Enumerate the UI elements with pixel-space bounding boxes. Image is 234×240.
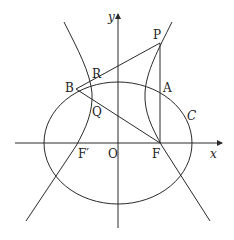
point-label-A: A — [163, 82, 172, 94]
hyperbola-left-branch — [26, 22, 92, 221]
origin-label-O: O — [108, 148, 118, 160]
x-axis-label: x — [210, 148, 217, 160]
diagram-canvas: y x P A C B R Q F′ O F — [0, 0, 234, 240]
y-axis-label: y — [108, 11, 115, 23]
point-label-B: B — [65, 82, 74, 94]
point-label-P: P — [153, 29, 161, 41]
point-label-Q: Q — [92, 106, 102, 118]
curve-label-C: C — [187, 110, 196, 122]
diagram-svg — [0, 0, 234, 240]
point-label-R: R — [92, 68, 101, 80]
point-label-F: F — [152, 148, 160, 160]
hyperbola-right-branch — [145, 22, 210, 221]
point-label-F-prime: F′ — [78, 148, 89, 160]
